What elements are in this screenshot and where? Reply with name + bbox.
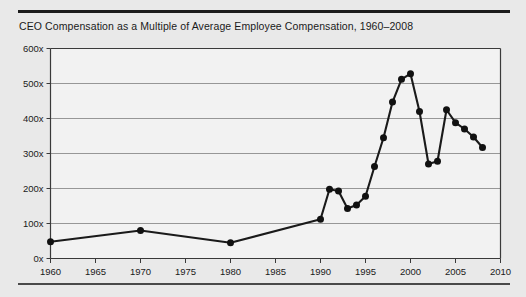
x-tick-marks	[51, 259, 501, 264]
svg-text:100x: 100x	[23, 218, 44, 229]
svg-text:300x: 300x	[23, 148, 44, 159]
line-chart-svg: 0x100x200x300x400x500x600x 1960196519701…	[0, 0, 526, 297]
svg-text:1980: 1980	[220, 266, 241, 277]
svg-text:0x: 0x	[33, 253, 43, 264]
chart-figure: CEO Compensation as a Multiple of Averag…	[0, 0, 526, 297]
plot-area: 0x100x200x300x400x500x600x 1960196519701…	[0, 0, 526, 297]
svg-text:1990: 1990	[310, 266, 331, 277]
grid-lines	[51, 49, 501, 259]
svg-text:1995: 1995	[355, 266, 376, 277]
svg-text:1960: 1960	[40, 266, 61, 277]
svg-text:200x: 200x	[23, 183, 44, 194]
svg-text:500x: 500x	[23, 78, 44, 89]
svg-text:400x: 400x	[23, 113, 44, 124]
x-tick-labels: 1960196519701975198019851990199520002005…	[40, 266, 511, 277]
svg-text:2000: 2000	[400, 266, 421, 277]
svg-text:1970: 1970	[130, 266, 151, 277]
svg-text:1965: 1965	[85, 266, 106, 277]
y-tick-labels: 0x100x200x300x400x500x600x	[23, 43, 44, 264]
svg-text:1975: 1975	[175, 266, 196, 277]
svg-text:1985: 1985	[265, 266, 286, 277]
svg-text:2005: 2005	[445, 266, 466, 277]
bottom-rule	[18, 283, 510, 285]
svg-text:2010: 2010	[490, 266, 511, 277]
svg-text:600x: 600x	[23, 43, 44, 54]
